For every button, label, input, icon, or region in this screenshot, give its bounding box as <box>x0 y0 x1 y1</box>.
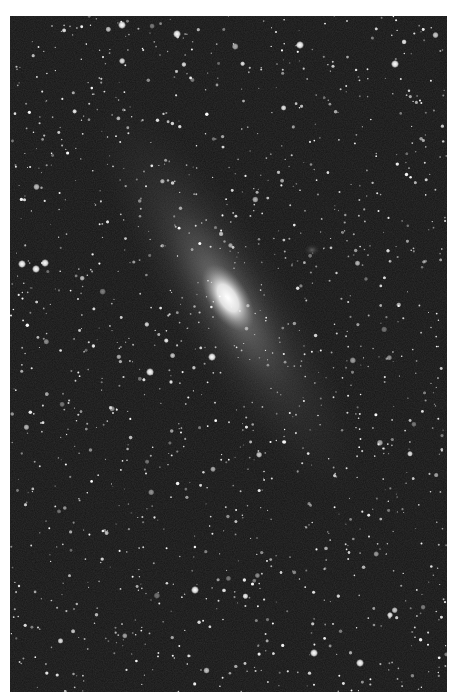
star-field <box>10 16 447 692</box>
astro-photo <box>10 16 447 692</box>
companion-galaxy <box>304 244 320 256</box>
